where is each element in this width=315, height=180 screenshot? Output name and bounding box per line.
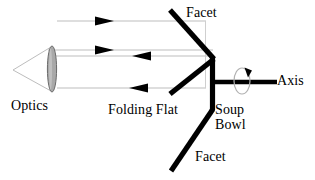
middle-ray-arrow-right-icon bbox=[95, 46, 114, 55]
lower-ray-arrow-left-icon bbox=[129, 84, 148, 93]
label-soup-bowl-line2: Bowl bbox=[215, 118, 246, 133]
folding-flat-mirror bbox=[170, 59, 214, 94]
upper-ray-arrow-icon bbox=[95, 17, 114, 26]
mirror-assembly bbox=[170, 10, 214, 171]
label-axis: Axis bbox=[277, 74, 304, 89]
rotation-arrow-icon bbox=[245, 68, 253, 78]
ray-arrowheads bbox=[95, 17, 151, 93]
diagram-canvas bbox=[0, 0, 315, 180]
label-facet-top: Facet bbox=[186, 6, 217, 21]
cone-lower-line bbox=[13, 70, 51, 91]
label-soup-bowl-line1: Soup bbox=[215, 103, 246, 118]
label-facet-bottom: Facet bbox=[195, 150, 226, 165]
middle-ray-arrow-left-icon bbox=[132, 52, 151, 61]
focus-cone bbox=[13, 47, 51, 91]
label-soup-bowl: Soup Bowl bbox=[215, 103, 246, 132]
cone-upper-line bbox=[13, 47, 51, 70]
lens-highlight bbox=[49, 48, 52, 90]
label-folding-flat: Folding Flat bbox=[108, 103, 178, 118]
label-optics: Optics bbox=[11, 99, 48, 114]
optical-diagram: Facet Optics Folding Flat Soup Bowl Axis… bbox=[0, 0, 315, 180]
